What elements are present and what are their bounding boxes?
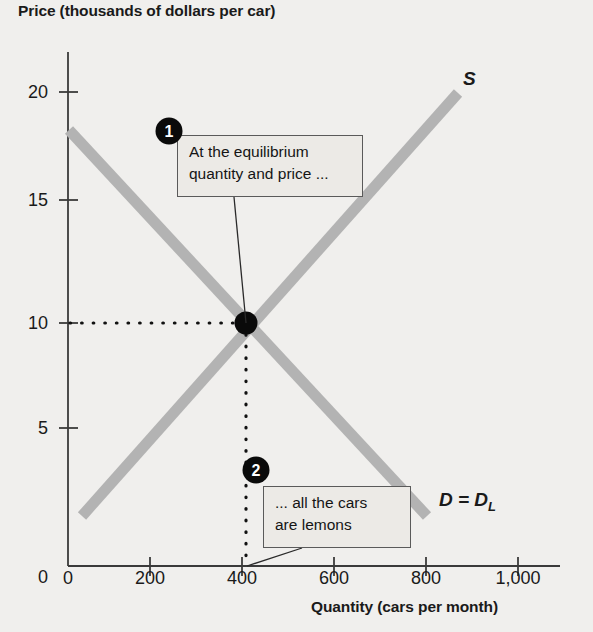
x-tick-label-400: 400: [227, 568, 257, 589]
y-tick-label-10: 10: [8, 313, 48, 334]
demand-curve-label: D = DL: [439, 489, 496, 514]
y-tick-label-0: 0: [8, 567, 48, 588]
y-tick-label-5: 5: [8, 418, 48, 439]
x-tick-label-200: 200: [135, 568, 165, 589]
x-axis-title: Quantity (cars per month): [311, 598, 498, 616]
x-tick-label-600: 600: [319, 568, 349, 589]
x-tick-label-0: 0: [63, 568, 73, 589]
x-tick-label-1000: 1,000: [495, 568, 540, 589]
demand-curve-label-text: D = D: [439, 489, 488, 510]
supply-demand-chart: Price (thousands of dollars per car): [0, 0, 593, 632]
y-tick-label-15: 15: [8, 190, 48, 211]
demand-curve-label-subscript: L: [488, 499, 496, 514]
x-tick-label-800: 800: [411, 568, 441, 589]
callout-2-badge: 2: [243, 457, 270, 484]
callout-2-box: ... all the cars are lemons: [263, 486, 411, 548]
callout-1-badge: 1: [156, 118, 183, 145]
callout-1-box: At the equilibrium quantity and price ..…: [177, 135, 363, 197]
supply-curve-label-text: S: [463, 68, 476, 89]
supply-curve-label: S: [463, 68, 476, 90]
callout-2-leader-line: [247, 548, 302, 566]
y-tick-label-20: 20: [8, 82, 48, 103]
